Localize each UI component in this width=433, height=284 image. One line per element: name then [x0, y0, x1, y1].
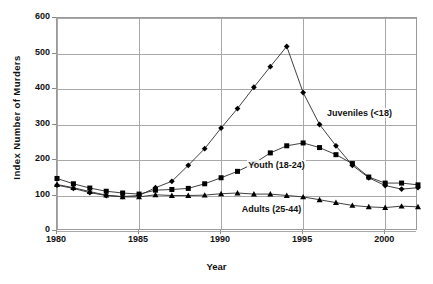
data-point-marker — [416, 182, 421, 187]
series-3 — [54, 181, 421, 209]
data-point-marker — [317, 145, 322, 150]
y-tick-label: 600 — [16, 11, 50, 21]
x-tick-label: 1990 — [200, 234, 240, 244]
y-tick-label: 500 — [16, 47, 50, 57]
series-label-2: Youth (18-24) — [247, 160, 305, 170]
x-tick-label: 1995 — [282, 234, 322, 244]
data-point-marker — [301, 140, 306, 145]
chart-figure: Index Number of Murders Year 01002003004… — [0, 0, 433, 284]
data-point-marker — [350, 161, 355, 166]
series-line — [57, 185, 418, 208]
data-point-marker — [219, 175, 224, 180]
data-point-marker — [186, 186, 191, 191]
data-point-marker — [333, 152, 338, 157]
data-point-marker — [169, 187, 174, 192]
data-point-marker — [55, 176, 60, 181]
data-point-marker — [399, 181, 404, 186]
data-point-marker — [268, 150, 273, 155]
plot-area: Juveniles (<18)Youth (18-24)Adults (25-4… — [56, 17, 417, 230]
gridline-horizontal — [57, 231, 416, 232]
data-series-layer — [57, 18, 418, 231]
data-point-marker — [284, 143, 289, 148]
series-1 — [54, 44, 421, 200]
series-line — [57, 46, 418, 196]
series-2 — [55, 140, 421, 196]
data-point-marker — [383, 181, 388, 186]
data-point-marker — [366, 175, 371, 180]
data-point-marker — [235, 169, 240, 174]
series-label-3: Adults (25-44) — [241, 204, 303, 214]
y-tick-label: 400 — [16, 82, 50, 92]
data-point-marker — [54, 181, 60, 186]
x-axis-title: Year — [0, 261, 433, 272]
x-tick-label: 1980 — [36, 234, 76, 244]
y-tick-label: 100 — [16, 189, 50, 199]
data-point-marker — [399, 186, 405, 192]
y-tick-label: 0 — [16, 224, 50, 234]
y-tick-label: 300 — [16, 118, 50, 128]
x-tick-label: 2000 — [364, 234, 404, 244]
data-point-marker — [300, 90, 306, 96]
x-tick-label: 1985 — [118, 234, 158, 244]
y-tick-label: 200 — [16, 153, 50, 163]
series-label-1: Juveniles (<18) — [326, 108, 393, 118]
caption-strip — [0, 278, 433, 284]
series-line — [57, 143, 418, 194]
data-point-marker — [202, 181, 207, 186]
